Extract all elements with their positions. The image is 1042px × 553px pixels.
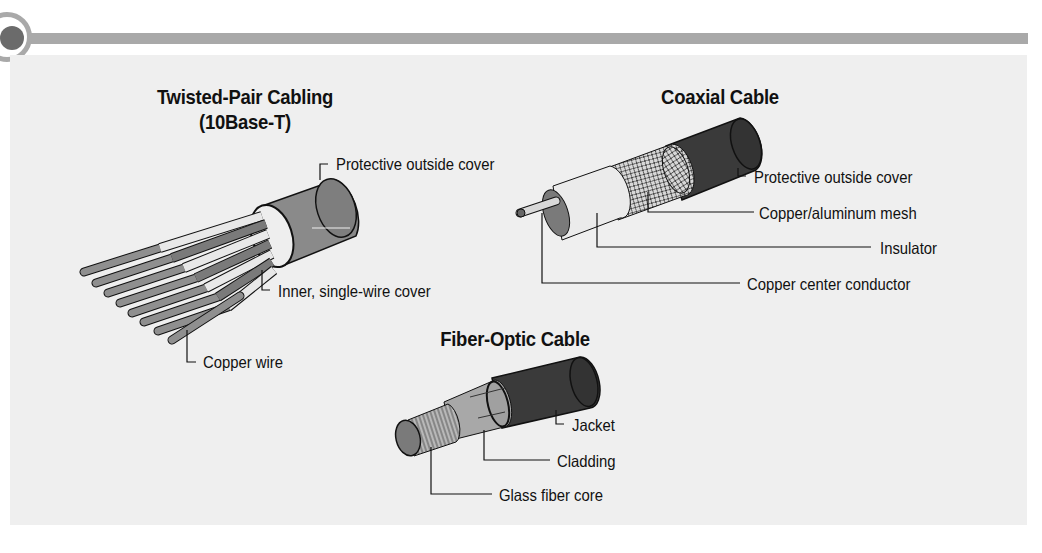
twisted-pair-copper-wire-label: Copper wire xyxy=(203,352,283,372)
twisted-pair-cable-icon xyxy=(84,164,363,362)
coaxial-outer-cover-label: Protective outside cover xyxy=(754,167,912,187)
fiber-jacket-label: Jacket xyxy=(572,415,615,435)
coaxial-conductor-label: Copper center conductor xyxy=(747,274,910,294)
coaxial-cable-icon xyxy=(517,115,871,283)
fiber-cladding-label: Cladding xyxy=(557,451,616,471)
coaxial-mesh-label: Copper/aluminum mesh xyxy=(759,203,917,223)
twisted-pair-inner-cover-label: Inner, single-wire cover xyxy=(278,281,431,301)
fiber-core-label: Glass fiber core xyxy=(499,485,603,505)
twisted-pair-outer-cover-label: Protective outside cover xyxy=(336,154,494,174)
coaxial-insulator-label: Insulator xyxy=(880,238,937,258)
